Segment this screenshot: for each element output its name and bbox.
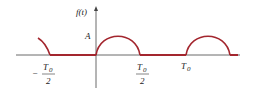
amplitude-label: A	[84, 31, 91, 41]
waveform	[38, 36, 238, 55]
tick-label-neg-half-period: − T 0 2	[32, 62, 55, 86]
subscript: 0	[187, 65, 191, 73]
waveform-diagram: f(t) A − T 0 2 T 0 2 T 0	[0, 0, 258, 91]
subscript: 0	[143, 66, 147, 74]
waveform-arc	[96, 36, 140, 55]
subscript: 0	[49, 66, 53, 74]
denominator: 2	[140, 76, 145, 86]
minus-sign: −	[32, 68, 38, 78]
y-axis-label: f(t)	[76, 7, 87, 17]
y-axis-arrow-icon	[94, 6, 98, 11]
tick-label-half-period: T 0 2	[136, 62, 149, 86]
waveform-partial-arc	[38, 38, 50, 55]
tick-label-period: T 0	[181, 61, 191, 73]
waveform-arc	[186, 36, 230, 55]
denominator: 2	[46, 76, 51, 86]
